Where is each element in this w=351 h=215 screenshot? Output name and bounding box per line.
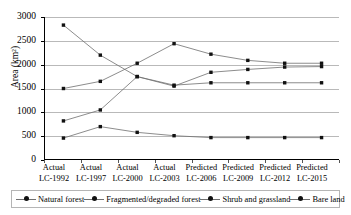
x-tick-label-line2: LC-2015 bbox=[283, 174, 341, 185]
legend-marker-icon bbox=[16, 196, 36, 203]
x-tick-label-line1: Predicted bbox=[283, 163, 341, 174]
legend-item-natural-forest[interactable]: Natural forest bbox=[16, 195, 84, 204]
legend-label: Natural forest bbox=[38, 195, 84, 204]
legend-marker-icon bbox=[200, 196, 220, 203]
legend-item-fragmented-degraded-forest[interactable]: Fragmented/degraded forest bbox=[84, 195, 200, 204]
x-tick-marks bbox=[44, 17, 339, 160]
y-tick-label: 3000 bbox=[17, 12, 36, 22]
legend-label: Fragmented/degraded forest bbox=[106, 195, 200, 204]
legend-label: Shrub and grassland bbox=[222, 195, 290, 204]
legend-marker-icon bbox=[84, 196, 104, 203]
legend-label: Bare land bbox=[312, 195, 344, 204]
x-axis-labels: Actual LC-1992 Actual LC-1997 Actual LC-… bbox=[0, 163, 351, 187]
legend-item-shrub-and-grassland[interactable]: Shrub and grassland bbox=[200, 195, 290, 204]
x-tick-label: Predicted LC-2015 bbox=[283, 163, 341, 184]
chart-legend: Natural forest Fragmented/degraded fores… bbox=[11, 190, 340, 208]
y-axis-title: Area (km²) bbox=[10, 30, 20, 104]
y-tick-label: 500 bbox=[22, 131, 36, 141]
y-tick-label: 1000 bbox=[17, 107, 36, 117]
legend-item-bare-land[interactable]: Bare land bbox=[290, 195, 344, 204]
chart-container: 3000 2500 2000 1500 1000 500 0 Area (km²… bbox=[0, 0, 351, 215]
legend-marker-icon bbox=[290, 196, 310, 203]
